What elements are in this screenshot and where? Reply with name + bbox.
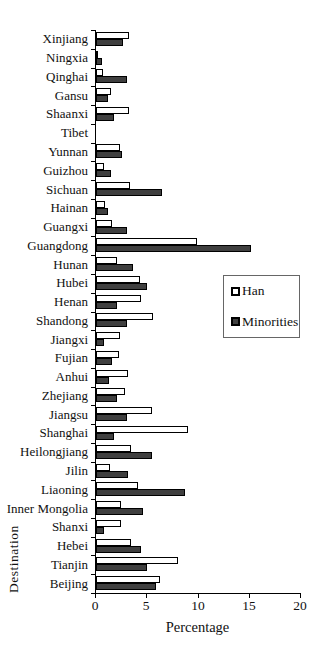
han-bar-ningxia [96, 51, 98, 58]
han-bar-guangdong [96, 238, 197, 245]
han-bar-hebei [96, 539, 131, 546]
legend-label-minorities: Minorities [242, 314, 298, 330]
minorities-bar-xinjiang [96, 39, 123, 46]
legend-item-han: Han [231, 283, 299, 299]
category-label-xinjiang: Xinjiang [0, 31, 88, 47]
y-axis-tick [91, 124, 95, 125]
legend-label-han: Han [242, 283, 265, 299]
han-bar-guizhou [96, 163, 104, 170]
y-axis-tick [91, 105, 95, 106]
han-bar-fujian [96, 351, 119, 358]
y-axis-tick [91, 330, 95, 331]
y-axis-tick [91, 368, 95, 369]
minorities-bar-liaoning [96, 489, 185, 496]
x-axis-tick-label: 20 [287, 598, 313, 614]
x-axis-tick-label: 0 [82, 598, 108, 614]
y-axis-tick [91, 537, 95, 538]
y-axis-tick [91, 293, 95, 294]
han-bar-gansu [96, 88, 111, 95]
minorities-bar-ningxia [96, 58, 102, 65]
han-bar-xinjiang [96, 32, 129, 39]
category-label-guangdong: Guangdong [0, 238, 88, 254]
category-label-shanxi: Shanxi [0, 519, 88, 535]
y-axis-tick [91, 555, 95, 556]
han-bar-sichuan [96, 182, 130, 189]
han-bar-hunan [96, 257, 117, 264]
y-axis-tick [91, 405, 95, 406]
category-label-shandong: Shandong [0, 313, 88, 329]
minorities-bar-hebei [96, 546, 141, 553]
y-axis-tick [91, 86, 95, 87]
minorities-bar-jiangsu [96, 414, 127, 421]
han-bar-liaoning [96, 482, 138, 489]
y-axis-tick [91, 161, 95, 162]
category-label-liaoning: Liaoning [0, 482, 88, 498]
legend-item-minorities: Minorities [231, 314, 299, 330]
minorities-bar-sichuan [96, 189, 162, 196]
y-axis-tick [91, 30, 95, 31]
y-axis-tick [91, 312, 95, 313]
category-label-fujian: Fujian [0, 350, 88, 366]
category-label-guizhou: Guizhou [0, 163, 88, 179]
han-bar-shaanxi [96, 107, 129, 114]
category-label-hainan: Hainan [0, 200, 88, 216]
han-swatch-icon [231, 287, 240, 296]
y-axis-tick [91, 424, 95, 425]
category-label-ningxia: Ningxia [0, 50, 88, 66]
han-bar-guangxi [96, 220, 112, 227]
minorities-bar-beijing [96, 583, 156, 590]
y-axis-tick [91, 574, 95, 575]
minorities-bar-guangdong [96, 245, 251, 252]
minorities-bar-shaanxi [96, 114, 114, 121]
legend: Han Minorities [223, 275, 300, 338]
minorities-bar-hainan [96, 208, 108, 215]
y-axis-tick [91, 218, 95, 219]
minorities-bar-tianjin [96, 564, 147, 571]
minorities-swatch-icon [231, 317, 240, 326]
minorities-bar-gansu [96, 95, 108, 102]
y-axis-tick [91, 349, 95, 350]
y-axis-tick [91, 68, 95, 69]
category-label-tianjin: Tianjin [0, 557, 88, 573]
category-label-shaanxi: Shaanxi [0, 106, 88, 122]
y-axis-tick [91, 143, 95, 144]
minorities-bar-zhejiang [96, 395, 117, 402]
x-axis-tick-label: 5 [133, 598, 159, 614]
x-axis-label: Percentage [95, 619, 300, 636]
y-axis-tick [91, 443, 95, 444]
category-label-anhui: Anhui [0, 369, 88, 385]
category-label-henan: Henan [0, 294, 88, 310]
han-bar-heilongjiang [96, 445, 131, 452]
category-label-shanghai: Shanghai [0, 425, 88, 441]
han-bar-jiangxi [96, 332, 120, 339]
han-bar-zhejiang [96, 388, 125, 395]
minorities-bar-inner-mongolia [96, 508, 143, 515]
minorities-bar-shanxi [96, 527, 104, 534]
minorities-bar-guangxi [96, 227, 127, 234]
y-axis-tick [91, 480, 95, 481]
han-bar-beijing [96, 576, 160, 583]
han-bar-tianjin [96, 557, 178, 564]
category-label-jiangsu: Jiangsu [0, 407, 88, 423]
category-label-yunnan: Yunnan [0, 144, 88, 160]
minorities-bar-shandong [96, 320, 127, 327]
category-label-qinghai: Qinghai [0, 69, 88, 85]
category-label-sichuan: Sichuan [0, 182, 88, 198]
y-axis-tick [91, 49, 95, 50]
category-label-tibet: Tibet [0, 125, 88, 141]
y-axis-tick [91, 518, 95, 519]
minorities-bar-qinghai [96, 76, 127, 83]
category-label-guangxi: Guangxi [0, 219, 88, 235]
y-axis-tick [91, 199, 95, 200]
han-bar-anhui [96, 370, 128, 377]
minorities-bar-guizhou [96, 170, 111, 177]
han-bar-shanxi [96, 520, 121, 527]
han-bar-shandong [96, 313, 153, 320]
y-axis-tick [91, 180, 95, 181]
minorities-bar-yunnan [96, 151, 122, 158]
y-axis-tick [91, 236, 95, 237]
category-label-jilin: Jilin [0, 463, 88, 479]
minorities-bar-hunan [96, 264, 133, 271]
han-bar-henan [96, 295, 141, 302]
category-label-hubei: Hubei [0, 275, 88, 291]
